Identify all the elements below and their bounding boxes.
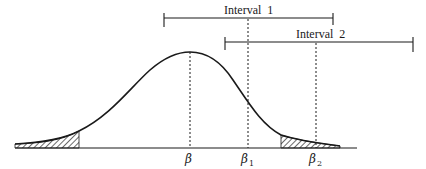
interval-2: Interval 2 — [225, 27, 413, 52]
sampling-distribution-diagram: Interval 1 Interval 2 β β 1 β 2 — [0, 0, 426, 169]
interval-1-label: Interval 1 — [224, 3, 273, 17]
bell-curve — [15, 52, 340, 146]
interval-2-label: Interval 2 — [296, 27, 345, 41]
beta2-label: β — [308, 152, 316, 166]
beta1-label: β — [240, 152, 248, 166]
left-tail-shaded-region — [15, 131, 79, 148]
beta-label: β — [184, 152, 192, 166]
beta1-subscript: 1 — [249, 159, 254, 168]
beta2-subscript: 2 — [317, 159, 322, 168]
